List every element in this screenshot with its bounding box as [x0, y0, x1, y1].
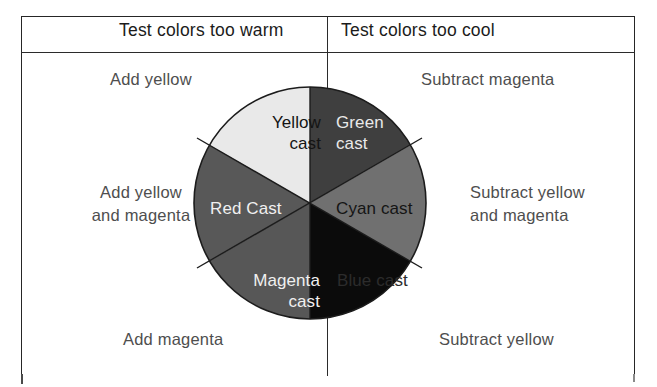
note-subtract-yellow: Subtract yellow [439, 328, 554, 351]
sector-label-red-line1: Red Cast [210, 198, 320, 219]
sector-label-blue: Blue cast [337, 270, 429, 291]
sector-label-green-line1: Green [336, 112, 408, 133]
heading-too-warm: Test colors too warm [119, 20, 283, 41]
sector-label-magenta-line2: cast [228, 291, 320, 312]
sector-label-blue-line1: Blue cast [337, 270, 429, 291]
frame-bottom-left-stub [21, 374, 23, 384]
note-add-yellow: Add yellow [110, 68, 192, 91]
sector-label-yellow: Yellow cast [243, 112, 321, 154]
heading-too-cool: Test colors too cool [341, 20, 495, 41]
sector-label-green-line2: cast [336, 133, 408, 154]
sector-label-green: Green cast [336, 112, 408, 154]
sector-label-magenta-line1: Magenta [228, 270, 320, 291]
note-subtract-yellow-and-magenta-line1: Subtract yellow [470, 183, 585, 201]
sector-label-yellow-line2: cast [243, 133, 321, 154]
note-subtract-yellow-and-magenta-line2: and magenta [470, 204, 657, 227]
frame-bottom-right-stub [633, 374, 635, 382]
sector-label-red: Red Cast [210, 198, 320, 219]
sector-label-cyan-line1: Cyan cast [336, 198, 446, 219]
color-cast-wheel-figure: Test colors too warm Test colors too coo… [0, 0, 657, 387]
sector-label-cyan: Cyan cast [336, 198, 446, 219]
note-add-magenta: Add magenta [123, 328, 223, 351]
note-add-yellow-and-magenta-line1: Add yellow [100, 183, 182, 201]
note-subtract-magenta: Subtract magenta [421, 68, 554, 91]
note-subtract-yellow-and-magenta: Subtract yellow and magenta [470, 181, 657, 227]
sector-label-yellow-line1: Yellow [243, 112, 321, 133]
sector-label-magenta: Magenta cast [228, 270, 320, 312]
